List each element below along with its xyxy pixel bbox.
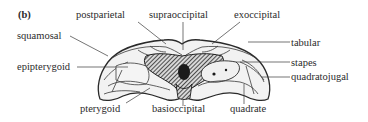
label-squamosal: squamosal bbox=[17, 30, 61, 42]
label-epipterygoid: epipterygoid bbox=[17, 61, 70, 73]
label-tabular: tabular bbox=[291, 37, 320, 49]
label-exoccipital: exoccipital bbox=[234, 9, 280, 21]
leader-exoccipital bbox=[212, 22, 240, 44]
label-basioccipital: basioccipital bbox=[152, 103, 205, 115]
panel-label: (b) bbox=[18, 9, 31, 21]
label-quadrate: quadrate bbox=[230, 103, 266, 115]
label-supraoccipital: supraoccipital bbox=[149, 9, 208, 21]
skull-diagram-figure: (b) postparietal supraoccipital exoccipi… bbox=[0, 0, 368, 122]
leader-postparietal bbox=[138, 22, 166, 44]
label-stapes: stapes bbox=[291, 57, 317, 69]
foramen-magnum bbox=[178, 64, 190, 80]
leader-squamosal bbox=[70, 36, 108, 56]
label-pterygoid: pterygoid bbox=[80, 103, 120, 115]
label-postparietal: postparietal bbox=[76, 9, 125, 21]
label-quadratojugal: quadratojugal bbox=[291, 71, 349, 83]
